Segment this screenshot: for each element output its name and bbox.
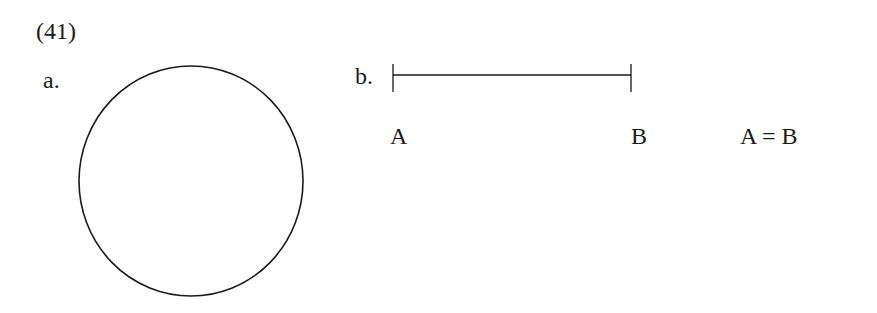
panel-b-label: b.: [355, 64, 373, 88]
endpoint-b-label: B: [631, 124, 647, 148]
endpoint-a-label: A: [390, 124, 407, 148]
diagram-canvas: [0, 0, 877, 313]
equation-label: A = B: [740, 124, 798, 148]
circle-shape: [79, 66, 303, 296]
